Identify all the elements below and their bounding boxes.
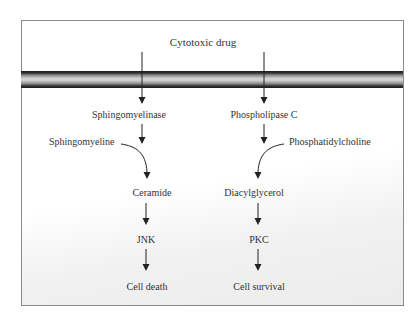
arrowhead-icon [261, 97, 268, 104]
node-phospholipase-c: Phospholipase C [231, 109, 298, 120]
arrowhead-icon [144, 172, 151, 179]
arrowhead-icon [139, 137, 146, 144]
node-cytotoxic-drug: Cytotoxic drug [170, 36, 236, 48]
node-sphingomyelinase: Sphingomyelinase [92, 109, 166, 120]
node-cell-death: Cell death [127, 281, 168, 292]
arrowhead-icon [139, 97, 146, 104]
node-sphingomyeline: Sphingomyeline [49, 136, 115, 147]
node-phosphatidylcholine: Phosphatidylcholine [289, 136, 371, 147]
arrowhead-icon [143, 264, 150, 271]
arrowhead-icon [255, 264, 262, 271]
arrowhead-icon [261, 137, 268, 144]
arrows-layer [0, 0, 416, 321]
arrow-phosphatidylcholine-to-dag [258, 144, 284, 172]
node-ceramide: Ceramide [133, 187, 172, 198]
arrow-sphingomyeline-to-ceramide [121, 144, 147, 172]
node-pkc: PKC [249, 234, 268, 245]
node-cell-survival: Cell survival [233, 281, 284, 292]
arrowhead-icon [255, 218, 262, 225]
node-diacylglycerol: Diacylglycerol [224, 187, 283, 198]
arrowhead-icon [255, 172, 262, 179]
arrowhead-icon [143, 218, 150, 225]
node-jnk: JNK [137, 234, 155, 245]
